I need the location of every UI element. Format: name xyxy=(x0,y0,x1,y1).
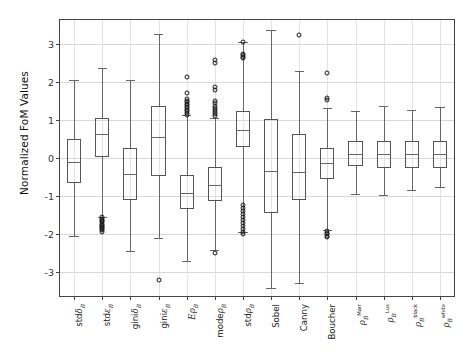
x-tick-mark xyxy=(384,296,385,300)
x-tick-mark xyxy=(102,296,103,300)
x-tick-mark xyxy=(327,296,328,300)
whisker-upper xyxy=(440,107,441,141)
y-tick-label: 3 xyxy=(48,38,54,49)
x-tick-label: stdεB xyxy=(102,304,114,326)
y-tick-label: -1 xyxy=(45,191,54,202)
x-tick-mark xyxy=(215,296,216,300)
x-tick-mark xyxy=(74,296,75,300)
x-tick-mark xyxy=(299,296,300,300)
y-axis-label: Normalized FoM Values xyxy=(18,0,32,283)
y-tick-label: 1 xyxy=(48,114,54,125)
x-tick-label: ρBLux xyxy=(384,304,397,322)
whisker-cap-lower xyxy=(435,187,444,188)
x-tick-mark xyxy=(412,296,413,300)
x-tick-mark xyxy=(159,296,160,300)
y-tick-label: 0 xyxy=(48,153,54,164)
x-tick-mark xyxy=(440,296,441,300)
x-tick-label: stdρB xyxy=(243,304,255,327)
whisker-cap-upper xyxy=(435,107,444,108)
box-plot-series xyxy=(60,20,454,296)
x-tick-label: ρBblack xyxy=(412,304,425,327)
y-tick-label: -2 xyxy=(45,229,54,240)
x-tick-mark xyxy=(187,296,188,300)
y-tick-label: -3 xyxy=(45,267,54,278)
x-tick-mark xyxy=(356,296,357,300)
x-tick-label: Sobel xyxy=(271,304,281,328)
whisker-lower xyxy=(440,168,441,187)
x-tick-label: ρBwhite xyxy=(440,304,453,327)
x-tick-label: giniεB xyxy=(159,304,171,329)
x-tick-label: EρB xyxy=(187,304,199,320)
x-tick-mark xyxy=(271,296,272,300)
x-tick-mark xyxy=(130,296,131,300)
median-line xyxy=(433,154,447,155)
x-tick-label: stdδB xyxy=(74,304,86,327)
plot-inner: 3210-1-2-3stdδBstdεBginiδBginiεBEρBmodeρ… xyxy=(60,20,454,296)
plot-area: 3210-1-2-3stdδBstdεBginiδBginiεBEρBmodeρ… xyxy=(59,19,455,297)
x-tick-label: ρBMarr xyxy=(356,304,369,325)
x-tick-mark xyxy=(243,296,244,300)
x-tick-label: giniδB xyxy=(130,304,142,329)
x-tick-label: Canny xyxy=(299,304,309,331)
x-tick-label: modeρB xyxy=(215,304,227,338)
x-tick-label: Boucher xyxy=(327,304,337,340)
boxplot-figure: Normalized FoM Values 3210-1-2-3stdδBstd… xyxy=(0,0,473,357)
y-tick-label: 2 xyxy=(48,76,54,87)
